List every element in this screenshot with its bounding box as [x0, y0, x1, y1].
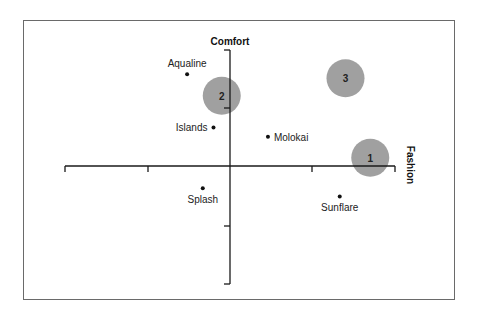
- brand-label: Molokai: [274, 132, 308, 143]
- segment-bubbles: 123: [203, 59, 390, 177]
- brand-point: [212, 125, 216, 129]
- segment-label: 3: [343, 73, 349, 84]
- brand-label: Aqualine: [168, 58, 207, 69]
- x-axis-title: Fashion: [405, 146, 416, 184]
- segment-label: 2: [219, 91, 225, 102]
- brand-point: [266, 135, 270, 139]
- brand-point: [338, 194, 342, 198]
- brand-label: Splash: [187, 194, 218, 205]
- y-axis-title: Comfort: [211, 36, 251, 47]
- brand-label: Sunflare: [321, 202, 359, 213]
- brand-point: [201, 186, 205, 190]
- brand-point: [185, 72, 189, 76]
- segment-label: 1: [367, 153, 373, 164]
- brand-label: Islands: [176, 122, 208, 133]
- perceptual-map: 123 Comfort Fashion AqualineIslandsMolok…: [0, 0, 478, 314]
